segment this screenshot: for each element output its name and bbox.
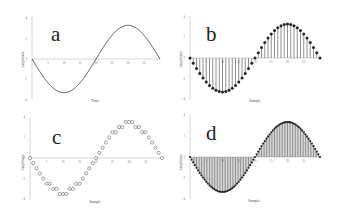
svg-text:2: 2 (184, 35, 186, 39)
panel-letter-d: d (206, 123, 217, 144)
panel-letter-b: b (206, 24, 217, 45)
panel-letter-c: c (52, 127, 61, 148)
y-axis-label-b: Amplitude (178, 51, 183, 68)
svg-text:35: 35 (143, 61, 147, 65)
svg-text:35: 35 (302, 60, 306, 64)
svg-text:15: 15 (78, 160, 82, 164)
panel-c: 420-2-45101520253035 c Sample Amplitude (0, 107, 171, 214)
svg-text:35: 35 (302, 159, 306, 163)
x-axis-label-d: Sample (248, 198, 260, 203)
svg-text:25: 25 (111, 61, 115, 65)
svg-text:30: 30 (286, 159, 290, 163)
svg-text:25: 25 (270, 60, 274, 64)
plot-a: 420-2-45101520253035 (0, 0, 171, 107)
svg-text:30: 30 (286, 60, 290, 64)
plot-c: 420-2-45101520253035 (0, 107, 171, 214)
svg-text:25: 25 (270, 159, 274, 163)
panel-b: 420-2-45101520253035 b Sample Amplitude (171, 0, 342, 107)
plot-b: 420-2-45101520253035 (171, 0, 342, 107)
svg-text:20: 20 (254, 60, 258, 64)
panel-letter-a: a (51, 24, 60, 45)
svg-text:10: 10 (63, 61, 67, 65)
panel-a: 420-2-45101520253035 a Time Amplitude (0, 0, 171, 107)
svg-text:-4: -4 (25, 98, 28, 102)
svg-text:20: 20 (95, 160, 99, 164)
svg-text:2: 2 (184, 134, 186, 138)
svg-text:35: 35 (144, 160, 148, 164)
svg-text:-4: -4 (183, 197, 186, 201)
svg-text:4: 4 (184, 113, 186, 117)
x-axis-label-a: Time (91, 98, 99, 103)
svg-text:-2: -2 (183, 77, 186, 81)
panel-d: 420-2-45101520253035 d Sample Amplitude (171, 107, 342, 214)
svg-text:30: 30 (128, 160, 132, 164)
svg-text:4: 4 (184, 15, 186, 19)
svg-text:25: 25 (111, 160, 115, 164)
svg-text:15: 15 (79, 61, 83, 65)
svg-text:-4: -4 (23, 197, 26, 201)
svg-text:-4: -4 (183, 97, 186, 101)
x-axis-label-b: Sample (249, 98, 261, 103)
x-axis-label-c: Sample (89, 199, 101, 204)
svg-text:0: 0 (184, 56, 186, 60)
svg-text:4: 4 (24, 115, 26, 119)
y-axis-label-d: Amplitude (178, 154, 183, 171)
svg-text:-2: -2 (25, 77, 28, 81)
svg-text:-2: -2 (23, 177, 26, 181)
svg-text:-2: -2 (183, 176, 186, 180)
svg-text:2: 2 (26, 37, 28, 41)
svg-text:5: 5 (47, 61, 49, 65)
svg-text:30: 30 (127, 61, 131, 65)
svg-text:4: 4 (26, 16, 28, 20)
svg-text:10: 10 (62, 160, 66, 164)
svg-text:5: 5 (46, 160, 48, 164)
svg-text:2: 2 (24, 135, 26, 139)
svg-text:0: 0 (184, 155, 186, 159)
y-axis-label-c: Amplitude (20, 154, 25, 171)
svg-text:20: 20 (95, 61, 99, 65)
y-axis-label-a: Amplitude (20, 51, 25, 68)
svg-text:0: 0 (26, 57, 28, 61)
